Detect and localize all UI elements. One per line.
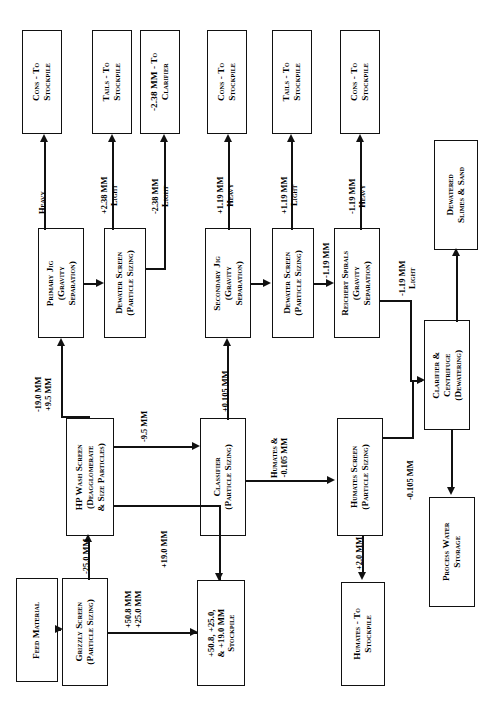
edge-label-primary-heavy: Heavy	[38, 191, 48, 214]
connector-to-primary-vert	[61, 346, 63, 418]
edge-label-to-primary-jig: -19.0 MM+9.5 MM	[34, 377, 53, 412]
edge-label-spirals-light: -1.19 MMLight	[398, 261, 417, 296]
connector-dewater1-minus-horiz	[146, 268, 166, 270]
node-label: HP Wash Screen(Deagglomerate& Size Parti…	[74, 443, 107, 512]
edge-label-secondary-heavy: +1.19 MMHeavy	[216, 177, 235, 214]
arrowhead-dewater1-plus	[108, 134, 116, 142]
node-label: Clarifier &Centrifuge(Dewatering)	[431, 350, 464, 401]
connector-spirals-light-horiz	[380, 300, 412, 302]
node-label: Cons - ToStockpile	[31, 63, 53, 101]
node-hp-wash-screen: HP Wash Screen(Deagglomerate& Size Parti…	[66, 418, 114, 536]
edge-label-dewater2-minus: -1.19 MM	[322, 243, 332, 278]
node-tails-stockpile-2: Tails - ToStockpile	[272, 30, 312, 134]
node-label: Dewater Screen(Particle Sizing)	[114, 250, 136, 316]
node-clarifier-centrifuge: Clarifier &Centrifuge(Dewatering)	[424, 320, 470, 430]
node-dewater-screen-1: Dewater Screen(Particle Sizing)	[104, 228, 146, 338]
node-cons-stockpile-3: Cons - ToStockpile	[340, 30, 380, 134]
connector-primary-heavy	[44, 142, 46, 230]
connector-humates-undersize-vert	[412, 380, 414, 438]
arrowhead-hp-undersize	[192, 442, 200, 450]
node-dewater-screen-2: Dewater Screen(Particle Sizing)	[272, 228, 314, 338]
arrowhead-spirals-heavy	[356, 134, 364, 142]
connector-hp-oversize-vert	[219, 505, 221, 581]
arrowhead-primary-to-dewater1	[96, 279, 104, 287]
node-label: Grizzly Screen(Particle Sizing)	[74, 599, 96, 665]
node-label: Cons - ToStockpile	[216, 63, 238, 101]
connector-clarifier-to-water	[451, 430, 453, 490]
arrowhead-classifier-undersize	[327, 476, 335, 484]
edge-label-humates-oversize: +2.0 MM	[355, 537, 365, 570]
edge-label-classifier-undersize: Humates &-0.105 MM	[270, 437, 289, 478]
node-label: Humates - ToStockpile	[352, 608, 374, 660]
arrowhead-humates-oversize	[358, 572, 366, 580]
node-dewatered-slimes: DewateredSlimes & Sand	[434, 140, 478, 250]
arrowhead-hp-oversize	[215, 573, 223, 581]
connector-hp-oversize-horiz	[114, 505, 220, 507]
node-label: Humates Screen(Particle Sizing)	[349, 444, 371, 510]
node-grizzly-screen: Grizzly Screen(Particle Sizing)	[62, 578, 108, 686]
node-primary-jig: Primary Jig(GravitySeparation)	[38, 228, 84, 338]
arrowhead-secondary-to-dewater2	[263, 279, 271, 287]
edge-label-dewater2-light: +1.19 MMLight	[280, 177, 299, 214]
edge-label-classifier-oversize: +0.105 MM	[221, 370, 231, 412]
arrowhead-to-primary-jig	[57, 338, 65, 346]
edge-label-hp-oversize: +19.0 MM	[160, 531, 170, 568]
arrowhead-dewater2-light	[287, 134, 295, 142]
node-cons-stockpile-2: Cons - ToStockpile	[207, 30, 247, 134]
node-label: +50.8, +25.0,& +19.0 MMStockpile	[206, 609, 236, 658]
node-label: Primary Jig(GravitySeparation)	[45, 260, 78, 306]
connector-hp-undersize	[114, 446, 196, 448]
edge-label-hp-undersize: -9.5 MM	[140, 411, 150, 442]
arrowhead-classifier-oversize	[223, 338, 231, 346]
node-clarifier-feed: -2.38 MM - ToClarifier	[140, 30, 180, 134]
node-reichert-spirals: Reichert Spirals(GravitySeparation)	[334, 228, 380, 338]
arrowhead-dewater1-minus	[160, 134, 168, 142]
node-classifier: Classifier(Particle Sizing)	[200, 418, 246, 536]
node-label: Feed Material	[32, 601, 43, 658]
node-label: Process WaterStorage	[441, 523, 463, 581]
connector-spirals-light-vert	[410, 300, 412, 382]
edge-label-grizzly-oversize: +50.8 MM+25.0 MM	[124, 591, 143, 628]
node-process-water-storage: Process WaterStorage	[429, 497, 475, 607]
arrowhead-clarifier-to-slimes	[452, 248, 460, 256]
connector-grizzly-oversize	[108, 632, 197, 634]
arrowhead-primary-heavy	[40, 134, 48, 142]
flowchart-canvas: Cons - ToStockpile Tails - ToStockpile -…	[0, 0, 498, 704]
edge-label-spirals-heavy: -1.19 MMHeavy	[348, 179, 367, 214]
node-label: Dewater Screen(Particle Sizing)	[282, 250, 304, 316]
edge-label-grizzly-undersize: -25.0 MM	[82, 539, 92, 574]
arrowhead-grizzly-oversize	[190, 628, 198, 636]
arrowhead-feed-to-grizzly	[55, 625, 63, 633]
edge-label-humates-undersize: -0.105 MM	[406, 460, 416, 500]
connector-to-primary-horiz	[61, 416, 90, 418]
edge-label-dewater1-minus: -2.38 MMLight	[151, 179, 170, 214]
node-label: Cons - ToStockpile	[349, 63, 371, 101]
node-secondary-jig: Secondary Jig(GravitySeparation)	[205, 228, 251, 338]
node-humates-screen: Humates Screen(Particle Sizing)	[337, 418, 383, 536]
node-label: Classifier(Particle Sizing)	[212, 444, 234, 510]
arrowhead-clarifier-to-water	[447, 487, 455, 495]
node-tails-stockpile-1: Tails - ToStockpile	[92, 30, 132, 134]
node-oversize-stockpile: +50.8, +25.0,& +19.0 MMStockpile	[197, 580, 245, 686]
node-label: DewateredSlimes & Sand	[445, 167, 467, 223]
node-label: Reichert Spirals(GravitySeparation)	[341, 250, 374, 315]
connector-humates-undersize-horiz	[383, 437, 414, 439]
connector-classifier-undersize	[246, 480, 331, 482]
arrowhead-secondary-heavy	[224, 134, 232, 142]
node-label: -2.38 MM - ToClarifier	[149, 53, 171, 111]
arrowhead-humates-to-clarifier	[417, 376, 425, 384]
node-cons-stockpile-1: Cons - ToStockpile	[22, 30, 62, 134]
node-label: Tails - ToStockpile	[281, 62, 303, 101]
connector-clarifier-to-slimes	[456, 256, 458, 322]
node-humates-stockpile: Humates - ToStockpile	[341, 582, 385, 686]
node-label: Tails - ToStockpile	[101, 62, 123, 101]
arrowhead-dewater2-to-spirals	[326, 279, 334, 287]
node-feed-material: Feed Material	[16, 578, 58, 682]
edge-label-dewater1-plus: +2.38 MMLight	[100, 177, 119, 214]
node-label: Secondary Jig(GravitySeparation)	[212, 256, 245, 311]
